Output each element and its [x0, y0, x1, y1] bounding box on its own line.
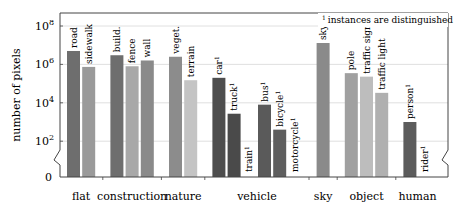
bar-person — [403, 122, 416, 177]
bar-label: pole — [346, 51, 356, 70]
axis-break-left — [54, 150, 60, 170]
bar-label: person1 — [404, 84, 415, 119]
bar-label: train1 — [243, 146, 254, 172]
bar-traffic-light — [375, 93, 388, 177]
category-label: human — [398, 190, 436, 203]
annotation-note: 1instances are distinguished — [318, 13, 453, 27]
bar-fence — [126, 66, 139, 177]
y-axis-ticks: 1081061041020 — [35, 18, 63, 184]
instances-note: 1instances are distinguished — [322, 14, 453, 25]
axis-break-right — [442, 150, 448, 170]
category-label: construction — [97, 190, 167, 203]
category-label: nature — [165, 190, 202, 203]
bar-truck — [228, 114, 241, 177]
bar-terrain — [184, 80, 197, 177]
bar-sky — [317, 43, 330, 177]
bar-label: traffic sign — [362, 24, 372, 74]
category-label: vehicle — [236, 190, 277, 203]
category-label: sky — [314, 190, 333, 203]
bar-road — [67, 51, 80, 177]
bar-label: bicycle1 — [274, 91, 285, 127]
bar-label: car1 — [213, 56, 224, 75]
y-tick-label: 108 — [35, 18, 54, 33]
y-tick-label: 102 — [35, 133, 54, 148]
bar-build- — [110, 55, 123, 177]
bar-label: motorcycle1 — [289, 118, 300, 173]
bar-pole — [345, 73, 358, 177]
bar-label: traffic light — [377, 38, 387, 90]
bar-bicycle — [273, 130, 286, 177]
bar-label: bus1 — [259, 82, 270, 102]
y-tick-label: 0 — [45, 171, 52, 184]
bar-bus — [258, 105, 271, 177]
y-tick-label: 104 — [35, 95, 54, 110]
bar-label: veget. — [171, 26, 181, 55]
y-tick-label: 106 — [35, 56, 54, 71]
y-axis-label: number of pixels — [10, 48, 23, 142]
bar-label: terrain — [186, 45, 196, 77]
bar-label: wall — [142, 39, 152, 58]
bar-sidewalk — [82, 67, 95, 177]
bars: roadsidewalkbuild.fencewallveget.terrain… — [67, 23, 430, 177]
bar-label: build. — [112, 26, 122, 52]
bar-label: rider1 — [419, 146, 430, 172]
bar-label: road — [69, 27, 79, 48]
bar-label: truck1 — [228, 83, 239, 111]
category-label: object — [349, 190, 384, 203]
bar-wall — [141, 60, 154, 177]
bar-label: fence — [127, 38, 137, 63]
bar-traffic-sign — [360, 77, 373, 177]
bar-chart: roadsidewalkbuild.fencewallveget.terrain… — [0, 0, 470, 214]
x-axis-categories: flatconstructionnaturevehicleskyobjecthu… — [72, 190, 437, 203]
bar-car — [212, 78, 225, 177]
bar-veget- — [169, 57, 182, 177]
bar-label: sidewalk — [84, 23, 94, 64]
category-label: flat — [72, 190, 91, 203]
